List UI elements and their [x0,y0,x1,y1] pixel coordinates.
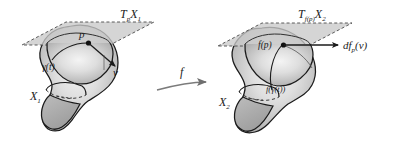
right-differential-label: dfp(v) [343,39,368,54]
map-label: f [180,65,185,79]
left-tangent-plane-label: TpX1 [120,7,141,23]
right-point-label: f(p) [258,40,272,51]
right-tangent-plane-label: Tf(p)X2 [298,7,326,23]
right-manifold-group: Tf(p)X2 f(p) f(γ(t)) dfp(v) X2 [218,7,368,133]
left-curve-label: γ(t) [42,62,55,73]
left-vector-label: v [113,66,118,78]
right-manifold-label: X2 [218,95,230,111]
left-point-label: p [78,28,85,40]
left-manifold-label: X1 [29,89,41,105]
map-arrow-group: f [157,65,206,90]
left-manifold-group: TpX1 p γ(t) v X1 [22,7,154,131]
right-curve-label: f(γ(t)) [266,84,286,94]
manifold-differential-diagram: TpX1 p γ(t) v X1 f Tf(p)X2 [0,0,398,151]
map-arrow [157,82,206,90]
